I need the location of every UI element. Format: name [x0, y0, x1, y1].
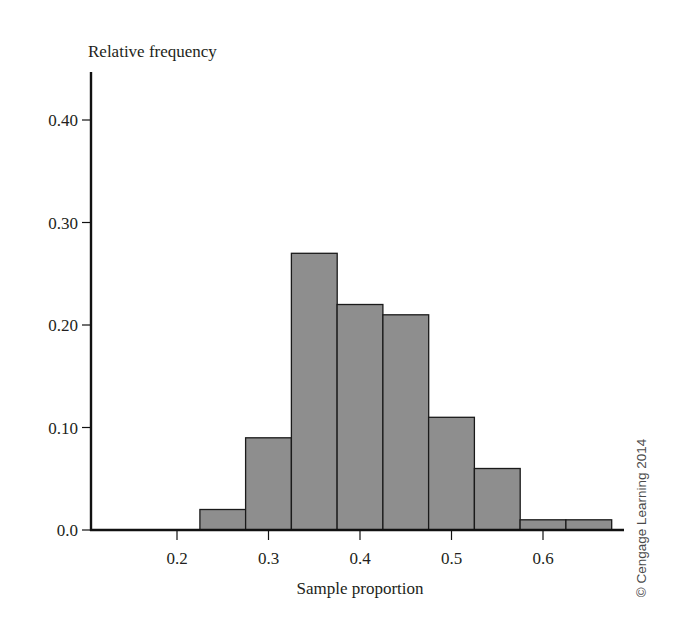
- histogram-bar: [566, 520, 612, 530]
- x-tick-label: 0.3: [258, 549, 279, 568]
- x-tick-label: 0.2: [166, 549, 187, 568]
- x-tick-label: 0.4: [349, 549, 371, 568]
- histogram-bar: [383, 315, 429, 530]
- x-axis-ticks: 0.20.30.40.50.6: [166, 531, 553, 568]
- copyright-notice: © Cengage Learning 2014: [634, 438, 649, 597]
- y-tick-label: 0.20: [48, 316, 78, 335]
- x-tick-label: 0.6: [532, 549, 553, 568]
- histogram-bars: [200, 253, 612, 530]
- x-tick-label: 0.5: [441, 549, 462, 568]
- histogram-bar: [337, 305, 383, 531]
- histogram-bar: [200, 510, 246, 531]
- y-tick-label: 0.40: [48, 111, 78, 130]
- y-tick-label: 0.0: [57, 521, 78, 540]
- histogram-bar: [474, 469, 520, 531]
- y-tick-label: 0.30: [48, 214, 78, 233]
- y-axis-label: Relative frequency: [88, 42, 217, 61]
- histogram-bar: [429, 417, 475, 530]
- y-axis-ticks: 0.00.100.200.300.40: [48, 111, 91, 540]
- histogram-bar: [246, 438, 292, 530]
- x-axis-label: Sample proportion: [296, 579, 424, 598]
- histogram-bar: [520, 520, 566, 530]
- y-tick-label: 0.10: [48, 419, 78, 438]
- histogram-chart: Relative frequency 0.00.100.200.300.40 0…: [0, 0, 679, 643]
- histogram-bar: [291, 253, 337, 530]
